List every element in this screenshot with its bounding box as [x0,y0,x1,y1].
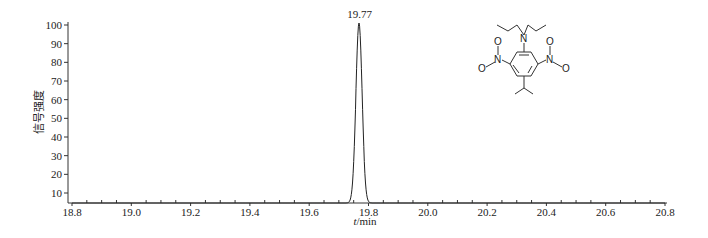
y-tick-label: 30 [51,150,63,162]
y-axis-label: 信号强度 [32,90,46,134]
axes [68,22,667,203]
x-tick-label: 20.0 [418,206,438,218]
atom-n-right: N [546,54,553,65]
y-tick-label: 90 [51,38,63,50]
y-tick-label: 60 [51,94,63,106]
y-tick-label: 40 [51,131,63,143]
chromatogram-trace [72,23,665,203]
series [72,23,665,203]
atom-o-right-top: O [546,36,554,47]
y-tick-label: 20 [51,168,63,180]
x-tick-label: 20.4 [537,206,557,218]
y-tick-label: 10 [51,187,63,199]
x-tick-label: 18.8 [62,206,82,218]
y-tick-label: 100 [46,19,63,31]
atom-o-right-bottom: O [562,63,570,74]
x-tick-label: 19.2 [181,206,200,218]
atom-n-amine: N [520,33,527,44]
chromatogram-chart: 102030405060708090100 18.819.019.219.419… [0,0,708,238]
x-axis-label-unit: /min [356,215,377,227]
x-tick-label: 19.0 [122,206,142,218]
y-tick-label: 80 [51,56,63,68]
molecule-labels: N N O O N O O [478,33,570,74]
atom-n-left: N [494,54,501,65]
peak-label: 19.77 [347,8,372,20]
y-tick-label: 70 [51,75,63,87]
x-tick-label: 20.2 [477,206,496,218]
x-tick-label: 20.8 [655,206,675,218]
x-tick-label: 20.6 [596,206,616,218]
x-tick-label: 19.6 [300,206,320,218]
atom-o-left-bottom: O [478,63,486,74]
x-tick-label: 19.4 [240,206,260,218]
x-axis-label: t/min [353,215,377,227]
atom-o-left-top: O [494,36,502,47]
y-tick-label: 50 [51,112,63,124]
y-ticks: 102030405060708090100 [46,19,69,199]
